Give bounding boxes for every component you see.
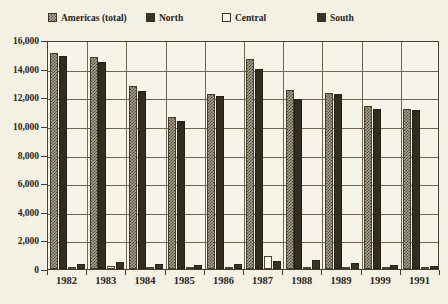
y-axis-tick [41,156,47,157]
y-axis-tick-label: 2,000 [18,237,39,246]
bar [390,265,398,269]
bar [246,59,254,269]
x-axis-tick-label: 1984 [135,275,156,286]
bar [273,261,281,269]
bar [342,267,350,270]
bar [77,264,85,269]
legend-label: North [159,13,183,23]
y-axis-tick-label: 8,000 [18,151,39,160]
x-axis-tick [204,270,205,275]
group-separator [362,42,363,269]
y-axis-tick [41,70,47,71]
bar [412,110,420,269]
legend-label: Americas (total) [61,13,127,23]
y-axis-tick [41,184,47,185]
solid-dark-swatch-icon [146,13,155,22]
bar [430,266,438,269]
bar [168,117,176,269]
bar [155,264,163,269]
chart-legend: Americas (total) North Central South [0,9,448,26]
bar [186,267,194,270]
x-axis-tick [361,270,362,275]
x-axis-tick-label: 1989 [331,275,352,286]
checkered-swatch-icon [48,13,57,22]
bar [286,90,294,269]
gridline [48,71,438,72]
x-axis-tick [282,270,283,275]
x-axis-tick [165,270,166,275]
bar [98,62,106,269]
white-swatch-icon [222,13,231,22]
bar [294,99,302,269]
x-axis-tick-label: 1999 [370,275,391,286]
y-axis: 16,00014,00012,00010,0008,0006,0004,0002… [0,41,44,270]
bar [255,69,263,269]
x-axis-tick-label: 1988 [291,275,312,286]
x-axis-tick-label: 1982 [56,275,77,286]
x-axis-tick [47,270,48,275]
legend-item-south: South [317,9,354,26]
bar [373,109,381,269]
bar [382,267,390,270]
bar [234,264,242,269]
bar [116,262,124,269]
y-axis-tick [41,98,47,99]
x-axis-tick-label: 1986 [213,275,234,286]
x-axis-tick [243,270,244,275]
bar [59,56,67,269]
y-axis-tick [41,213,47,214]
bar [107,266,115,269]
group-separator [126,42,127,269]
y-axis-tick-label: 14,000 [13,65,39,74]
group-separator [283,42,284,269]
x-axis-tick-label: 1985 [174,275,195,286]
gridline [48,99,438,100]
group-separator [322,42,323,269]
bar [351,263,359,269]
chart-title [0,0,448,7]
bar [129,86,137,269]
bar [325,93,333,269]
legend-item-americas-total: Americas (total) [48,9,127,26]
group-separator [205,42,206,269]
bar [194,265,202,269]
bar [216,96,224,269]
bar [364,106,372,269]
y-axis-tick [41,41,47,42]
group-separator [244,42,245,269]
bar [225,267,233,270]
group-separator [87,42,88,269]
x-axis-tick-label: 1991 [409,275,430,286]
solid-dark-swatch-icon [317,13,326,22]
y-axis-tick-label: 10,000 [13,122,39,131]
bar [421,267,429,270]
x-axis-tick-label: 1987 [252,275,273,286]
legend-label: Central [235,13,266,23]
y-axis-tick [41,127,47,128]
bar [264,256,272,269]
y-axis-tick-label: 4,000 [18,208,39,217]
group-separator [401,42,402,269]
y-axis-tick-label: 12,000 [13,94,39,103]
x-axis-tick [439,270,440,275]
group-separator [166,42,167,269]
bar [403,109,411,269]
bar [68,267,76,270]
y-axis-tick-label: 6,000 [18,180,39,189]
y-axis-tick-label: 0 [34,266,39,275]
x-axis: 1982198319841985198619871988198919991991 [47,275,439,291]
bar [207,94,215,269]
x-axis-tick [125,270,126,275]
bar [50,53,58,269]
bar [334,94,342,269]
legend-item-central: Central [222,9,266,26]
x-axis-tick [400,270,401,275]
bar [90,57,98,269]
y-axis-tick-label: 16,000 [13,37,39,46]
bar [146,267,154,270]
x-axis-tick-label: 1983 [95,275,116,286]
y-axis-tick [41,241,47,242]
legend-label: South [330,13,354,23]
x-axis-tick [321,270,322,275]
bar [303,267,311,270]
